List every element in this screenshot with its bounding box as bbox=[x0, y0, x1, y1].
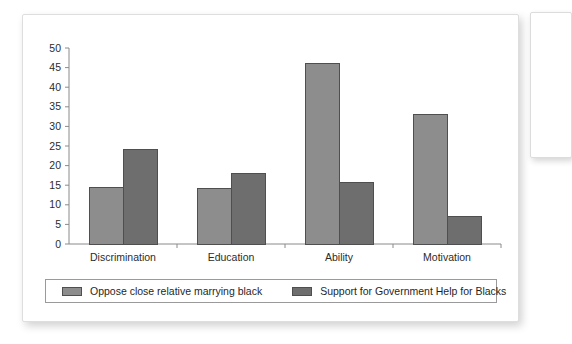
legend-swatch-icon bbox=[292, 287, 312, 296]
svg-text:Education: Education bbox=[208, 251, 255, 263]
svg-text:50: 50 bbox=[49, 42, 61, 54]
chart-legend: Oppose close relative marrying black Sup… bbox=[45, 279, 497, 303]
side-panel bbox=[530, 12, 572, 158]
svg-text:10: 10 bbox=[49, 198, 61, 210]
svg-text:Motivation: Motivation bbox=[423, 251, 471, 263]
svg-text:35: 35 bbox=[49, 100, 61, 112]
svg-text:0: 0 bbox=[55, 238, 61, 250]
svg-text:Ability: Ability bbox=[325, 251, 354, 263]
svg-text:25: 25 bbox=[49, 140, 61, 152]
svg-text:Discrimination: Discrimination bbox=[90, 251, 156, 263]
legend-item-series-2: Support for Government Help for Blacks bbox=[292, 280, 506, 302]
svg-text:15: 15 bbox=[49, 179, 61, 191]
svg-text:5: 5 bbox=[55, 218, 61, 230]
legend-item-series-1: Oppose close relative marrying black bbox=[62, 280, 262, 302]
svg-text:45: 45 bbox=[49, 61, 61, 73]
chart-canvas: 05101520253035404550DiscriminationEducat… bbox=[23, 15, 520, 275]
svg-text:20: 20 bbox=[49, 159, 61, 171]
svg-text:30: 30 bbox=[49, 120, 61, 132]
bar-chart: 05101520253035404550DiscriminationEducat… bbox=[23, 15, 520, 323]
legend-label: Support for Government Help for Blacks bbox=[320, 286, 506, 297]
legend-swatch-icon bbox=[62, 287, 82, 296]
figure-card: 05101520253035404550DiscriminationEducat… bbox=[22, 14, 519, 322]
svg-text:40: 40 bbox=[49, 81, 61, 93]
legend-label: Oppose close relative marrying black bbox=[90, 286, 262, 297]
